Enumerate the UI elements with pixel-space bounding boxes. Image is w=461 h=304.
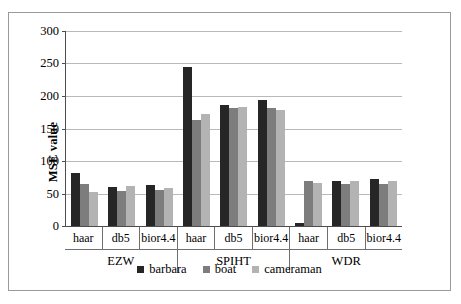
legend-swatch-barbara [137, 266, 144, 273]
legend-item-boat[interactable]: boat [203, 263, 237, 276]
bar-barbara-5[interactable] [258, 100, 267, 226]
bar-group [290, 31, 327, 226]
bar-cameraman-1[interactable] [126, 186, 135, 226]
x-tick-label-8: bior4.4 [366, 227, 403, 249]
bar-series-container [66, 31, 402, 226]
bar-group [141, 31, 178, 226]
bar-boat-0[interactable] [80, 184, 89, 226]
y-tick-label-200: 200 [40, 90, 66, 103]
bar-cameraman-8[interactable] [388, 181, 397, 226]
bar-group [365, 31, 402, 226]
bar-cameraman-7[interactable] [350, 181, 359, 227]
x-tick-label-3: haar [178, 227, 216, 249]
y-tick-label-100: 100 [40, 155, 66, 168]
bar-cameraman-4[interactable] [238, 107, 247, 226]
bar-cameraman-0[interactable] [89, 192, 98, 226]
chart-figure: MSE value 050100150200250300 haardb5bior… [8, 12, 451, 291]
bar-barbara-7[interactable] [332, 181, 341, 227]
x-tick-label-4: db5 [215, 227, 253, 249]
legend-item-barbara[interactable]: barbara [137, 263, 186, 276]
bar-boat-2[interactable] [155, 190, 164, 226]
legend-label-boat: boat [215, 263, 237, 276]
y-tick-label-50: 50 [47, 187, 67, 200]
bar-cameraman-2[interactable] [164, 188, 173, 226]
y-tick-label-0: 0 [53, 220, 66, 233]
legend-swatch-boat [203, 266, 210, 273]
bar-boat-8[interactable] [379, 184, 388, 226]
y-tick-label-250: 250 [40, 57, 66, 70]
bar-barbara-1[interactable] [108, 187, 117, 226]
bar-cameraman-3[interactable] [201, 114, 210, 226]
bar-boat-4[interactable] [229, 108, 238, 226]
bar-boat-7[interactable] [341, 184, 350, 226]
x-tick-label-1: db5 [103, 227, 141, 249]
legend-label-barbara: barbara [149, 263, 186, 276]
x-axis-wavelet-labels: haardb5bior4.4haardb5bior4.4haardb5bior4… [65, 227, 402, 250]
bar-group [253, 31, 290, 226]
bar-cameraman-6[interactable] [313, 183, 322, 226]
x-tick-label-6: haar [290, 227, 328, 249]
bar-group [215, 31, 252, 226]
bar-boat-1[interactable] [117, 191, 126, 226]
bar-barbara-6[interactable] [295, 223, 304, 226]
bar-boat-6[interactable] [304, 181, 313, 227]
x-tick-label-5: bior4.4 [253, 227, 291, 249]
y-tick-label-300: 300 [40, 25, 66, 38]
y-tick-label-150: 150 [40, 122, 66, 135]
x-tick-label-2: bior4.4 [140, 227, 178, 249]
bar-group [327, 31, 364, 226]
bar-cameraman-5[interactable] [276, 110, 285, 226]
x-tick-label-7: db5 [328, 227, 366, 249]
legend-label-cameraman: cameraman [264, 263, 322, 276]
bar-group [178, 31, 215, 226]
chart-legend: barbaraboatcameraman [9, 263, 450, 276]
bar-boat-3[interactable] [192, 120, 201, 226]
bar-barbara-8[interactable] [370, 179, 379, 226]
bar-barbara-3[interactable] [183, 67, 192, 226]
bar-boat-5[interactable] [267, 108, 276, 226]
bar-barbara-0[interactable] [71, 173, 80, 226]
bar-barbara-4[interactable] [220, 105, 229, 226]
bar-group [103, 31, 140, 226]
x-tick-label-0: haar [65, 227, 103, 249]
bar-barbara-2[interactable] [146, 185, 155, 226]
bar-group [66, 31, 103, 226]
plot-area: 050100150200250300 [65, 31, 402, 227]
legend-item-cameraman[interactable]: cameraman [252, 263, 322, 276]
legend-swatch-cameraman [252, 266, 259, 273]
